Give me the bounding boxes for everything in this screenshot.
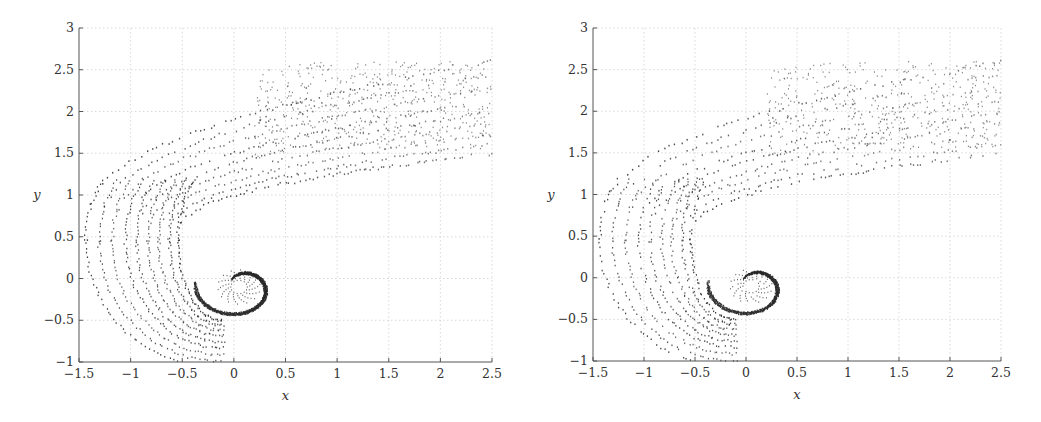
- x-tick-label: 0.5: [276, 366, 296, 381]
- right-chart-panel: −1.5−1−0.500.511.522.5−1−0.500.511.522.5…: [514, 0, 1034, 422]
- x-tick-label: 0: [742, 365, 750, 380]
- x-tick-labels: −1.5−1−0.500.511.522.5: [64, 366, 502, 381]
- left-chart-panel: −1.5−1−0.500.511.522.5−1−0.500.511.522.5…: [0, 0, 520, 422]
- x-tick-label: 2: [436, 366, 444, 381]
- x-tick-label: −0.5: [680, 365, 710, 380]
- x-axis-label: x: [793, 387, 801, 402]
- x-tick-label: 2: [946, 365, 954, 380]
- y-tick-label: −0.5: [558, 311, 588, 326]
- y-axis-label: y: [546, 187, 555, 202]
- grid-lines: [79, 28, 492, 362]
- x-tick-label: −1: [121, 366, 139, 381]
- x-tick-labels: −1.5−1−0.500.511.522.5: [578, 365, 1011, 380]
- x-tick-label: 0.5: [787, 365, 807, 380]
- y-tick-labels: −1−0.500.511.522.53: [44, 20, 74, 369]
- y-tick-labels: −1−0.500.511.522.53: [558, 20, 588, 368]
- x-tick-label: 1: [844, 365, 852, 380]
- particle-points: [84, 59, 493, 362]
- x-tick-label: 1.5: [379, 366, 399, 381]
- x-tick-label: 1: [333, 366, 341, 381]
- y-tick-label: 1: [580, 187, 588, 202]
- particle-points: [598, 60, 1001, 362]
- y-tick-label: 2: [66, 104, 74, 119]
- y-tick-label: 1: [66, 187, 74, 202]
- x-axis-label: x: [282, 388, 290, 403]
- axes: [79, 28, 492, 362]
- y-tick-label: 1.5: [54, 145, 74, 160]
- x-tick-label: −1: [635, 365, 653, 380]
- y-tick-label: 1.5: [568, 145, 588, 160]
- x-tick-label: 0: [230, 366, 238, 381]
- y-tick-label: 3: [66, 20, 74, 35]
- y-tick-label: 0: [66, 271, 74, 286]
- y-tick-label: 2: [580, 103, 588, 118]
- y-tick-label: 0.5: [54, 229, 74, 244]
- y-tick-label: 0.5: [568, 228, 588, 243]
- left-scatter-plot: −1.5−1−0.500.511.522.5−1−0.500.511.522.5…: [0, 0, 520, 422]
- y-tick-label: 2.5: [568, 62, 588, 77]
- y-tick-label: −0.5: [44, 312, 74, 327]
- x-tick-label: −0.5: [167, 366, 197, 381]
- y-tick-label: 3: [580, 20, 588, 35]
- y-tick-label: 2.5: [54, 62, 74, 77]
- right-scatter-plot: −1.5−1−0.500.511.522.5−1−0.500.511.522.5…: [514, 0, 1034, 422]
- x-tick-label: 2.5: [991, 365, 1011, 380]
- y-tick-label: −1: [56, 354, 74, 369]
- y-axis-label: y: [32, 187, 41, 202]
- y-tick-label: −1: [570, 353, 588, 368]
- y-tick-label: 0: [580, 270, 588, 285]
- x-tick-label: 2.5: [482, 366, 502, 381]
- grid-lines: [593, 28, 1001, 361]
- x-tick-label: 1.5: [889, 365, 909, 380]
